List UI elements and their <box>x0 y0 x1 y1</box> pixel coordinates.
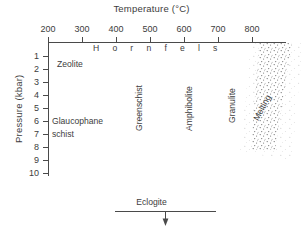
y-tick-label-7: 7 <box>21 130 39 139</box>
y-tick-label-4: 4 <box>21 91 39 100</box>
y-tick-label-6: 6 <box>21 117 39 126</box>
facies-label-granulite: Granulite <box>228 88 237 123</box>
x-tick-label-800: 800 <box>232 25 272 34</box>
y-tick-label-5: 5 <box>21 104 39 113</box>
eclogite-indicator <box>115 212 216 227</box>
y-tick-label-10: 10 <box>16 169 39 178</box>
facies-label-amphibolite: Amphibolite <box>185 86 194 131</box>
facies-label-glaucophane-schist-line2: schist <box>52 130 74 139</box>
facies-label-eclogite: Eclogite <box>0 198 303 207</box>
y-tick-label-3: 3 <box>21 78 39 87</box>
y-tick-label-1: 1 <box>21 52 39 61</box>
y-axis-ticks <box>43 57 48 174</box>
y-tick-label-8: 8 <box>21 143 39 152</box>
facies-label-glaucophane-schist: Glaucophane <box>52 117 103 126</box>
y-tick-label-9: 9 <box>21 156 39 165</box>
facies-label-greenschist: Greenschist <box>135 85 144 131</box>
facies-label-zeolite: Zeolite <box>57 60 83 69</box>
facies-label-hornfels: H o r n f e l s <box>93 44 223 53</box>
x-axis-ticks <box>49 37 253 42</box>
x-axis-title: Temperature (°C) <box>0 4 303 14</box>
metamorphic-facies-figure: Temperature (°C) Pressure (kbar) 200 300… <box>0 0 303 234</box>
y-tick-label-2: 2 <box>21 65 39 74</box>
